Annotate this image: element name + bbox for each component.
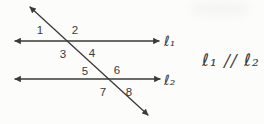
geometry-figure: 12345678ℓ₁ℓ₂ ℓ₁ // ℓ₂ (0, 0, 264, 124)
angle-label-5: 5 (82, 65, 88, 77)
angle-label-1: 1 (37, 24, 43, 36)
angle-label-2: 2 (72, 24, 78, 36)
label-l2: ℓ₂ (163, 72, 176, 88)
angle-label-8: 8 (126, 86, 132, 98)
parallel-lines-transversal-diagram: 12345678ℓ₁ℓ₂ (0, 0, 200, 124)
angle-label-3: 3 (60, 48, 66, 60)
angle-label-6: 6 (114, 64, 120, 76)
angle-label-7: 7 (100, 86, 106, 98)
label-l1: ℓ₁ (163, 33, 175, 49)
angle-label-4: 4 (89, 47, 96, 59)
transversal-line (30, 7, 148, 115)
parallel-statement: ℓ₁ // ℓ₂ (202, 50, 260, 70)
